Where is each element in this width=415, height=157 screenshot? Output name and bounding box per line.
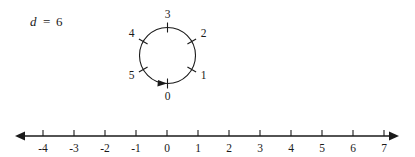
number-line: -4 -3 -2 -1 0 1 2 3 4 5 6 7: [15, 130, 399, 154]
modulus-variable: d: [30, 14, 37, 29]
circle-label-5: 5: [129, 69, 135, 81]
circle-label-0: 0: [165, 90, 171, 102]
number-line-label: 4: [288, 142, 294, 154]
number-line-right-arrow: [389, 132, 399, 141]
circle-label-1: 1: [201, 69, 207, 81]
modulus-value: 6: [56, 14, 63, 29]
number-line-label: 0: [164, 142, 170, 154]
number-line-label: 1: [195, 142, 201, 154]
number-line-label: 6: [350, 142, 356, 154]
circle-label-3: 3: [165, 8, 171, 20]
modulus-equals: =: [43, 14, 50, 29]
circle-label-2: 2: [201, 27, 207, 39]
number-line-label: -4: [38, 142, 48, 154]
circle-tick-5: [139, 67, 148, 72]
modulus-label: d = 6: [30, 14, 63, 29]
number-line-left-arrow: [15, 132, 25, 141]
number-line-label: 7: [381, 142, 387, 154]
clockwise-direction-arrow: [157, 80, 167, 87]
circle-outline: [140, 28, 196, 84]
number-line-label: 3: [257, 142, 263, 154]
number-line-label: -1: [131, 142, 141, 154]
circle-tick-4: [139, 39, 148, 44]
number-line-label: -2: [100, 142, 110, 154]
number-line-label: 2: [226, 142, 232, 154]
modular-arithmetic-figure: d = 6 0 1 2 3 4: [0, 0, 415, 157]
number-line-label: -3: [69, 142, 79, 154]
number-line-label: 5: [319, 142, 325, 154]
circle-tick-2: [187, 39, 196, 44]
modular-clock-circle: 0 1 2 3 4 5: [129, 8, 207, 102]
circle-label-4: 4: [129, 27, 135, 39]
circle-tick-1: [187, 67, 196, 72]
